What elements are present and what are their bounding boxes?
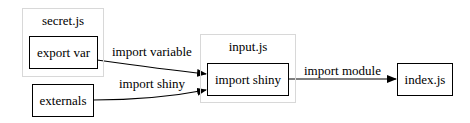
- edge-label-import-module: import module: [304, 63, 381, 79]
- node-export-var[interactable]: export var: [29, 36, 98, 69]
- cluster-label: secret.js: [23, 13, 103, 29]
- cluster-label: input.js: [201, 39, 295, 55]
- node-import-shiny[interactable]: import shiny: [207, 63, 289, 96]
- node-externals[interactable]: externals: [32, 84, 94, 117]
- edge-import-variable: [97, 60, 206, 74]
- edge-label-import-variable: import variable: [112, 44, 192, 60]
- edge-label-import-shiny: import shiny: [119, 76, 185, 92]
- node-index-js[interactable]: index.js: [397, 63, 453, 96]
